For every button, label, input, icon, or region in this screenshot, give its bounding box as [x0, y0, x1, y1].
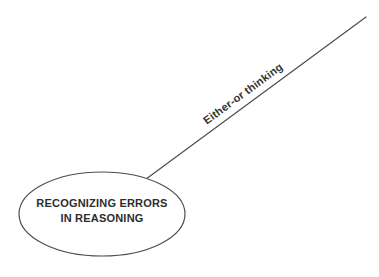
- center-node-label: RECOGNIZING ERRORS IN REASONING: [22, 196, 182, 226]
- concept-map-diagram: Either-or thinking RECOGNIZING ERRORS IN…: [0, 0, 379, 277]
- diagram-shapes: [0, 0, 379, 277]
- branch-line-either-or: [142, 17, 366, 182]
- center-node-label-line2: IN REASONING: [22, 211, 182, 226]
- center-node-label-line1: RECOGNIZING ERRORS: [22, 196, 182, 211]
